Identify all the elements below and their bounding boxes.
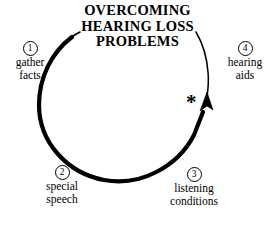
step-2-label-line-1: special bbox=[28, 180, 96, 193]
title-line-2: HEARING LOSS bbox=[0, 19, 275, 35]
step-1-number-badge: 1 bbox=[23, 41, 38, 56]
step-3-label-line-1: listening bbox=[140, 182, 248, 195]
step-4-hearing-aids: 4 hearing aids bbox=[216, 41, 274, 81]
cycle-arrowhead bbox=[200, 92, 213, 111]
title-line-1: OVERCOMING bbox=[0, 3, 275, 19]
step-1-gather-facts: 1 gather facts bbox=[2, 41, 58, 81]
step-3-listening-conditions: 3 listening conditions bbox=[140, 167, 248, 207]
step-4-label-line-1: hearing bbox=[216, 56, 274, 69]
asterisk-annotation: * bbox=[186, 92, 197, 113]
cycle-diagram-page: OVERCOMING HEARING LOSS PROBLEMS * 1 gat… bbox=[0, 0, 275, 225]
step-4-label-line-2: aids bbox=[216, 69, 274, 82]
step-2-number-badge: 2 bbox=[55, 165, 70, 180]
step-2-special-speech: 2 special speech bbox=[28, 165, 96, 205]
step-2-label-line-2: speech bbox=[28, 193, 96, 206]
step-3-number-badge: 3 bbox=[187, 167, 202, 182]
step-1-label-line-2: facts bbox=[2, 69, 58, 82]
step-3-label-line-2: conditions bbox=[140, 195, 248, 208]
cycle-arc-thick bbox=[39, 37, 203, 181]
step-4-number-badge: 4 bbox=[238, 41, 253, 56]
step-1-label-line-1: gather bbox=[2, 56, 58, 69]
